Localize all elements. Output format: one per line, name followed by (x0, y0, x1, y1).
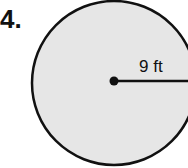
center-point (110, 77, 119, 86)
circle-diagram: 9 ft (0, 0, 188, 168)
radius-label: 9 ft (139, 57, 163, 76)
